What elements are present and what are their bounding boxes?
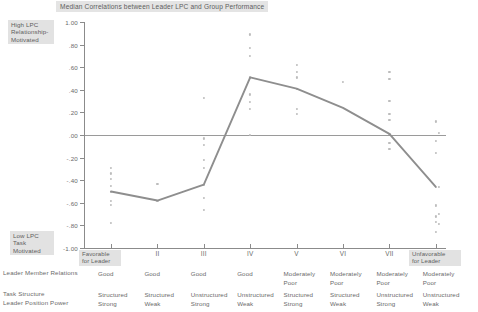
y-tick-label: .60 — [69, 64, 78, 71]
cell-task-structure: Structured — [284, 290, 314, 299]
cell-leader-position-power: Strong — [191, 299, 210, 308]
annotation-low-lpc: Low LPCTaskMotivated — [10, 231, 54, 255]
y-tick-label: -.20 — [67, 154, 78, 161]
y-tick-label: .40 — [69, 86, 78, 93]
cell-task-structure: Unstructured — [191, 290, 228, 299]
x-tick-label-V: V — [294, 250, 298, 257]
y-tick-label: -.80 — [67, 222, 78, 229]
y-tick-label: -.40 — [67, 177, 78, 184]
y-tick-label: .00 — [69, 132, 78, 139]
x-tick-label-IV: IV — [247, 250, 253, 257]
y-tick-label: .20 — [69, 109, 78, 116]
row-label-leader-position-power: Leader Position Power — [3, 299, 68, 306]
y-tick-label: -1.00 — [63, 245, 78, 252]
annotation-favorable-for-leader: Favorablefor Leader — [79, 250, 121, 266]
cell-leader-member-relations: Good — [144, 269, 160, 278]
x-tick-label-VII: VII — [385, 250, 393, 257]
cell-leader-position-power: Weak — [423, 299, 439, 308]
x-tick-label-VI: VI — [340, 250, 346, 257]
x-tick-label-III: III — [201, 250, 207, 257]
y-tick-label: 1.00 — [65, 19, 78, 26]
cell-leader-position-power: Weak — [237, 299, 253, 308]
cell-task-structure: Structured — [144, 290, 174, 299]
cell-task-structure: Structured — [330, 290, 360, 299]
cell-task-structure: Unstructured — [376, 290, 413, 299]
cell-leader-position-power: Weak — [144, 299, 160, 308]
y-tick-label: -.60 — [67, 199, 78, 206]
cell-task-structure: Structured — [98, 290, 128, 299]
cell-leader-member-relations: Good — [191, 269, 207, 278]
cell-leader-member-relations: ModeratelyPoor — [376, 269, 408, 288]
x-axis — [84, 248, 446, 249]
cell-leader-member-relations: ModeratelyPoor — [330, 269, 362, 288]
cell-leader-position-power: Strong — [284, 299, 303, 308]
cell-task-structure: Unstructured — [423, 290, 460, 299]
cell-leader-member-relations: ModeratelyPoor — [423, 269, 455, 288]
median-correlation-line — [84, 22, 446, 248]
chart-title: Median Correlations between Leader LPC a… — [56, 1, 268, 12]
chart-figure: Median Correlations between Leader LPC a… — [0, 0, 478, 312]
plot-area: 1.00.80.60.40.20.00-.20-.40-.60-.80-1.00… — [84, 22, 446, 248]
y-tick — [80, 248, 85, 249]
row-label-leader-member-relations: Leader Member Relations — [3, 269, 78, 276]
conditions-table: Leader Member Relations Task Structure L… — [0, 268, 478, 312]
annotation-unfavorable-for-leader: Unfavorablefor Leader — [409, 250, 461, 266]
x-tick-label-II: II — [155, 250, 159, 257]
cell-leader-position-power: Weak — [330, 299, 346, 308]
cell-task-structure: Unstructured — [237, 290, 274, 299]
y-tick-label: .80 — [69, 41, 78, 48]
cell-leader-position-power: Strong — [98, 299, 117, 308]
cell-leader-member-relations: Good — [237, 269, 253, 278]
cell-leader-position-power: Strong — [376, 299, 395, 308]
annotation-high-lpc: High LPCRelationship-Motivated — [8, 20, 54, 44]
row-label-task-structure: Task Structure — [3, 290, 45, 297]
cell-leader-member-relations: Good — [98, 269, 114, 278]
cell-leader-member-relations: ModeratelyPoor — [284, 269, 316, 288]
